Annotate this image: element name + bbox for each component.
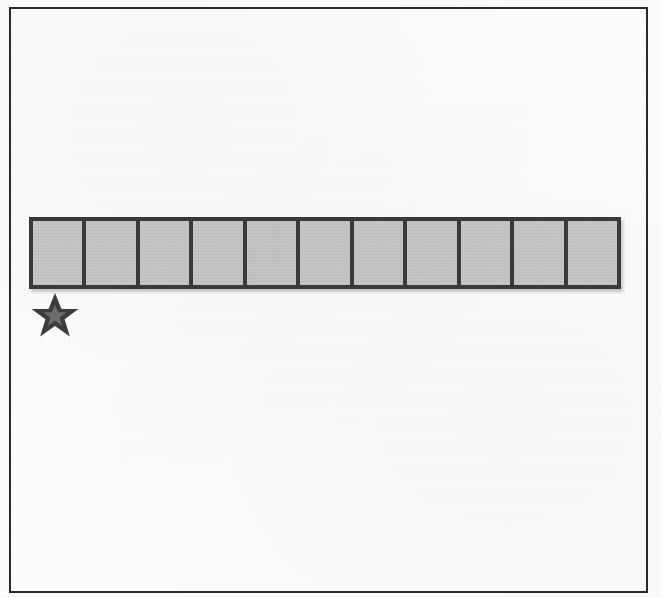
bar-cell-9[interactable]: [461, 221, 514, 285]
bar-cell-2[interactable]: [86, 221, 139, 285]
diagram-canvas: [0, 0, 663, 597]
bar-cell-7[interactable]: [354, 221, 407, 285]
bar-cell-4[interactable]: [193, 221, 246, 285]
bar-cell-6[interactable]: [300, 221, 353, 285]
star-icon[interactable]: [31, 292, 79, 338]
bar-cell-5[interactable]: [247, 221, 300, 285]
segmented-bar-wrapper: [29, 217, 621, 289]
bar-cell-10[interactable]: [514, 221, 567, 285]
bar-cell-11[interactable]: [568, 221, 617, 285]
segmented-bar[interactable]: [29, 217, 621, 289]
bar-cell-1[interactable]: [33, 221, 86, 285]
page-border-frame: [9, 7, 648, 593]
bar-cell-3[interactable]: [140, 221, 193, 285]
bar-cell-8[interactable]: [407, 221, 460, 285]
